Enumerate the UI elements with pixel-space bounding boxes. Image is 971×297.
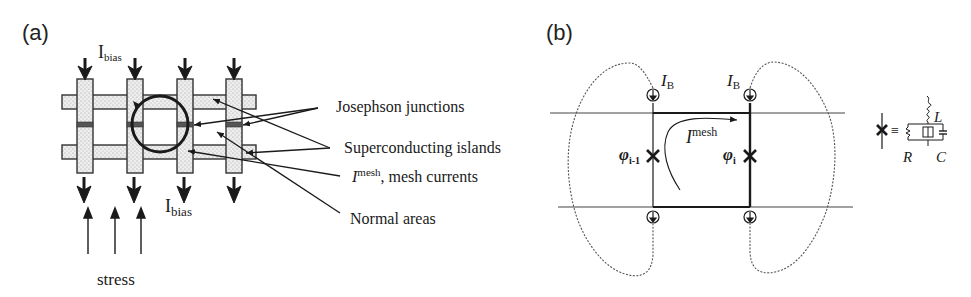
panel-a: (a): [22, 20, 501, 289]
stress-arrows: [84, 208, 145, 254]
arrow-down-icon: [128, 58, 142, 80]
junction-symbol-icon: [877, 113, 887, 149]
arrow-down-icon: [178, 58, 192, 80]
label-superconducting-islands: Superconducting islands: [344, 139, 501, 157]
junction-equivalent-circuit: ≡ L R C: [877, 96, 947, 165]
inductor-icon: [927, 96, 931, 124]
arrow-down-icon: [177, 177, 191, 203]
phase-label-left: φi-1: [619, 145, 640, 166]
stress-label: stress: [97, 270, 135, 289]
mesh-current-label: Imesh: [685, 125, 717, 147]
equivalent-sign: ≡: [891, 123, 899, 138]
dashed-loops: [568, 62, 835, 276]
source-label-right: IB: [726, 71, 740, 91]
panel-a-label: (a): [22, 20, 49, 45]
panel-b: (b) IB IB Imesh: [546, 20, 947, 276]
arrow-down-icon: [78, 58, 92, 80]
arrow-down-icon: [227, 177, 241, 203]
arrow-down-icon: [127, 177, 141, 203]
capacitor-label: C: [936, 149, 947, 165]
arrow-down-icon: [227, 58, 241, 80]
josephson-junctions: [77, 122, 242, 127]
bias-label-top: Ibias: [98, 42, 122, 63]
current-source-icon: [647, 89, 756, 223]
source-label-left: IB: [660, 71, 674, 91]
phase-label-right: φi: [723, 145, 736, 166]
panel-b-label: (b): [546, 20, 573, 45]
label-mesh-currents: Imesh, mesh currents: [351, 166, 478, 185]
junction-cross-icon: [647, 150, 756, 162]
resistor-label: R: [902, 149, 912, 165]
figure: (a): [0, 0, 971, 297]
bias-arrows-bottom: [77, 177, 241, 203]
resistor-icon: [906, 124, 910, 140]
arrow-down-icon: [77, 177, 91, 203]
label-normal-areas: Normal areas: [350, 210, 436, 227]
label-josephson-junctions: Josephson junctions: [336, 98, 464, 116]
inductor-label: L: [933, 109, 942, 125]
bias-label-bottom: Ibias: [165, 196, 192, 219]
